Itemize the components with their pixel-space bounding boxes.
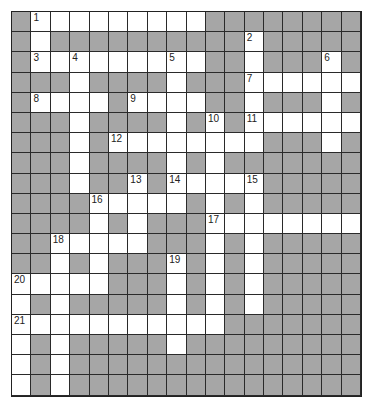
- answer-cell[interactable]: [70, 174, 89, 194]
- answer-cell[interactable]: [206, 174, 225, 194]
- answer-cell[interactable]: [187, 93, 206, 113]
- answer-cell[interactable]: [245, 295, 264, 315]
- answer-cell[interactable]: [322, 214, 341, 234]
- answer-cell[interactable]: [90, 234, 109, 254]
- answer-cell[interactable]: [167, 335, 186, 355]
- answer-cell[interactable]: [51, 93, 70, 113]
- answer-cell[interactable]: [245, 214, 264, 234]
- answer-cell[interactable]: 8: [31, 93, 50, 113]
- answer-cell[interactable]: [90, 254, 109, 274]
- answer-cell[interactable]: [245, 93, 264, 113]
- answer-cell[interactable]: 11: [245, 113, 264, 133]
- answer-cell[interactable]: [342, 73, 361, 93]
- answer-cell[interactable]: [12, 335, 31, 355]
- answer-cell[interactable]: 3: [31, 52, 50, 72]
- answer-cell[interactable]: [303, 214, 322, 234]
- answer-cell[interactable]: [31, 315, 50, 335]
- answer-cell[interactable]: [51, 355, 70, 375]
- answer-cell[interactable]: 5: [167, 52, 186, 72]
- answer-cell[interactable]: [148, 133, 167, 153]
- answer-cell[interactable]: [283, 113, 302, 133]
- answer-cell[interactable]: [70, 234, 89, 254]
- answer-cell[interactable]: [187, 133, 206, 153]
- answer-cell[interactable]: [245, 194, 264, 214]
- answer-cell[interactable]: 14: [167, 174, 186, 194]
- answer-cell[interactable]: 17: [206, 214, 225, 234]
- answer-cell[interactable]: 2: [245, 32, 264, 52]
- answer-cell[interactable]: [31, 32, 50, 52]
- answer-cell[interactable]: [70, 93, 89, 113]
- answer-cell[interactable]: [206, 153, 225, 173]
- answer-cell[interactable]: [167, 133, 186, 153]
- answer-cell[interactable]: [109, 52, 128, 72]
- answer-cell[interactable]: [51, 335, 70, 355]
- answer-cell[interactable]: [303, 113, 322, 133]
- answer-cell[interactable]: [167, 274, 186, 294]
- answer-cell[interactable]: [342, 113, 361, 133]
- answer-cell[interactable]: [167, 12, 186, 32]
- answer-cell[interactable]: [51, 254, 70, 274]
- answer-cell[interactable]: [322, 73, 341, 93]
- answer-cell[interactable]: [128, 133, 147, 153]
- answer-cell[interactable]: [264, 214, 283, 234]
- answer-cell[interactable]: [51, 12, 70, 32]
- answer-cell[interactable]: 7: [245, 73, 264, 93]
- answer-cell[interactable]: 9: [128, 93, 147, 113]
- answer-cell[interactable]: [206, 234, 225, 254]
- answer-cell[interactable]: 16: [90, 194, 109, 214]
- answer-cell[interactable]: [206, 295, 225, 315]
- answer-cell[interactable]: [128, 315, 147, 335]
- answer-cell[interactable]: [90, 274, 109, 294]
- answer-cell[interactable]: 18: [51, 234, 70, 254]
- answer-cell[interactable]: [187, 315, 206, 335]
- answer-cell[interactable]: [283, 214, 302, 234]
- answer-cell[interactable]: [70, 274, 89, 294]
- answer-cell[interactable]: [51, 52, 70, 72]
- answer-cell[interactable]: [51, 295, 70, 315]
- answer-cell[interactable]: [109, 12, 128, 32]
- answer-cell[interactable]: [148, 194, 167, 214]
- answer-cell[interactable]: [70, 133, 89, 153]
- answer-cell[interactable]: 15: [245, 174, 264, 194]
- answer-cell[interactable]: [264, 73, 283, 93]
- answer-cell[interactable]: [148, 12, 167, 32]
- answer-cell[interactable]: [167, 315, 186, 335]
- answer-cell[interactable]: [70, 12, 89, 32]
- answer-cell[interactable]: [148, 52, 167, 72]
- answer-cell[interactable]: 6: [322, 52, 341, 72]
- answer-cell[interactable]: [51, 274, 70, 294]
- answer-cell[interactable]: [322, 133, 341, 153]
- answer-cell[interactable]: [51, 375, 70, 395]
- answer-cell[interactable]: [128, 234, 147, 254]
- answer-cell[interactable]: [90, 315, 109, 335]
- answer-cell[interactable]: [70, 113, 89, 133]
- answer-cell[interactable]: [264, 113, 283, 133]
- answer-cell[interactable]: [225, 133, 244, 153]
- answer-cell[interactable]: [187, 52, 206, 72]
- answer-cell[interactable]: [245, 133, 264, 153]
- answer-cell[interactable]: [187, 12, 206, 32]
- answer-cell[interactable]: [245, 234, 264, 254]
- answer-cell[interactable]: [225, 214, 244, 234]
- answer-cell[interactable]: [322, 93, 341, 113]
- answer-cell[interactable]: [148, 315, 167, 335]
- answer-cell[interactable]: [31, 274, 50, 294]
- answer-cell[interactable]: [303, 73, 322, 93]
- answer-cell[interactable]: [90, 12, 109, 32]
- answer-cell[interactable]: [225, 174, 244, 194]
- answer-cell[interactable]: [167, 73, 186, 93]
- answer-cell[interactable]: [70, 73, 89, 93]
- answer-cell[interactable]: [245, 254, 264, 274]
- answer-cell[interactable]: 1: [31, 12, 50, 32]
- answer-cell[interactable]: [167, 194, 186, 214]
- answer-cell[interactable]: [342, 214, 361, 234]
- answer-cell[interactable]: [206, 194, 225, 214]
- answer-cell[interactable]: [128, 214, 147, 234]
- answer-cell[interactable]: [245, 52, 264, 72]
- answer-cell[interactable]: [187, 174, 206, 194]
- answer-cell[interactable]: [12, 355, 31, 375]
- answer-cell[interactable]: [109, 315, 128, 335]
- answer-cell[interactable]: [148, 93, 167, 113]
- answer-cell[interactable]: [206, 254, 225, 274]
- answer-cell[interactable]: 19: [167, 254, 186, 274]
